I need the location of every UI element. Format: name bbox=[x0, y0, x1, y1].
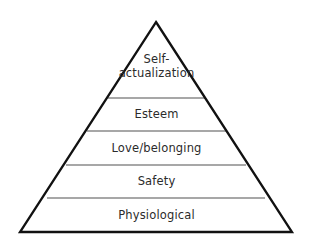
diagram-background bbox=[0, 0, 313, 248]
maslow-pyramid-diagram: Self- actualization Esteem Love/belongin… bbox=[0, 0, 313, 248]
pyramid-graphic bbox=[0, 0, 313, 248]
